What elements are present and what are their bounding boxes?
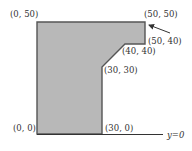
label-40-40: (40, 40) [122,46,156,56]
label-0-0: (0, 0) [13,123,36,133]
pointer-arrow [149,25,170,33]
label-30-30: (30, 30) [104,65,138,75]
label-50-50: (50, 50) [144,9,178,19]
label-30-0: (30, 0) [105,123,133,133]
diagram-canvas: (0, 50) (50, 50) (50, 40) (40, 40) (30, … [0,0,192,151]
label-0-50: (0, 50) [10,9,38,19]
cross-section-shape [37,22,145,134]
label-50-40: (50, 40) [148,36,182,46]
label-y0: y=0 [166,130,185,140]
